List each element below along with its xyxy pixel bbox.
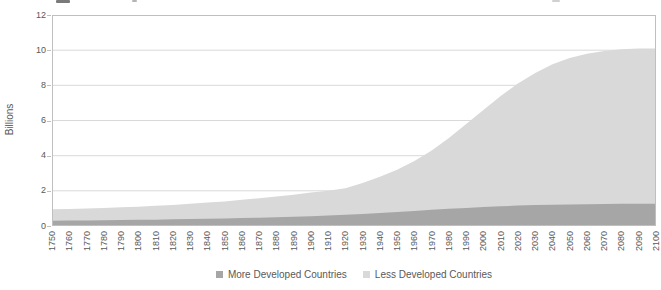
legend-swatch-less-developed-icon [363, 271, 370, 278]
y-axis-label-6: 6 [20, 115, 46, 126]
y-axis-label-10: 10 [20, 45, 46, 56]
x-axis-label-1890: 1890 [288, 231, 300, 261]
x-axis-label-1840: 1840 [201, 231, 213, 261]
y-axis-label-4: 4 [20, 150, 46, 161]
x-axis-label-1910: 1910 [322, 231, 334, 261]
stacked-area-chart [52, 15, 656, 226]
y-axis-label-12: 12 [20, 10, 46, 21]
x-axis-label-1760: 1760 [63, 231, 75, 261]
y-axis-tick [47, 191, 51, 192]
area-series-less-developed-countries [52, 48, 656, 226]
x-axis-label-2030: 2030 [529, 231, 541, 261]
x-axis-label-2000: 2000 [477, 231, 489, 261]
cropped-caption-remnant [132, 0, 137, 2]
y-axis-label-0: 0 [20, 221, 46, 232]
x-axis-label-1800: 1800 [132, 231, 144, 261]
x-axis-label-1920: 1920 [339, 231, 351, 261]
y-axis-tick [47, 156, 51, 157]
x-axis-label-1950: 1950 [391, 231, 403, 261]
legend-label-less-developed: Less Developed Countries [375, 269, 492, 280]
x-axis-label-1770: 1770 [81, 231, 93, 261]
y-axis-tick [47, 226, 51, 227]
x-axis-label-1810: 1810 [150, 231, 162, 261]
x-axis-label-2080: 2080 [615, 231, 627, 261]
legend-label-more-developed: More Developed Countries [228, 269, 347, 280]
y-axis-title: Billions [4, 14, 17, 225]
y-axis-label-2: 2 [20, 185, 46, 196]
x-axis-label-1830: 1830 [184, 231, 196, 261]
x-axis-label-1940: 1940 [374, 231, 386, 261]
chart-figure: Billions More Developed Countries Less D… [0, 0, 661, 290]
plot-area [52, 15, 656, 226]
x-axis-label-1960: 1960 [408, 231, 420, 261]
x-axis-label-2010: 2010 [495, 231, 507, 261]
x-axis-label-1930: 1930 [357, 231, 369, 261]
x-axis-label-1750: 1750 [46, 231, 58, 261]
x-axis-label-2040: 2040 [546, 231, 558, 261]
y-axis-tick [47, 85, 51, 86]
x-axis-label-1990: 1990 [460, 231, 472, 261]
x-axis-label-1790: 1790 [115, 231, 127, 261]
x-axis-label-1850: 1850 [219, 231, 231, 261]
x-axis-label-2100: 2100 [650, 231, 661, 261]
x-axis-label-1900: 1900 [305, 231, 317, 261]
cropped-caption-remnant [552, 0, 560, 2]
y-axis-tick [47, 15, 51, 16]
x-axis-label-2090: 2090 [633, 231, 645, 261]
x-axis-label-1870: 1870 [253, 231, 265, 261]
x-axis-label-2060: 2060 [581, 231, 593, 261]
x-axis-label-1860: 1860 [236, 231, 248, 261]
x-axis-label-1780: 1780 [98, 231, 110, 261]
y-axis-tick [47, 121, 51, 122]
x-axis-label-2050: 2050 [564, 231, 576, 261]
x-axis-label-2070: 2070 [598, 231, 610, 261]
y-axis-label-8: 8 [20, 80, 46, 91]
legend: More Developed Countries Less Developed … [52, 267, 656, 281]
legend-item-less-developed: Less Developed Countries [363, 269, 492, 280]
legend-swatch-more-developed-icon [216, 271, 223, 278]
x-axis-label-2020: 2020 [512, 231, 524, 261]
x-axis-label-1980: 1980 [443, 231, 455, 261]
y-axis-tick [47, 50, 51, 51]
cropped-caption-remnant [56, 0, 70, 3]
x-axis-label-1880: 1880 [270, 231, 282, 261]
x-axis-label-1820: 1820 [167, 231, 179, 261]
legend-item-more-developed: More Developed Countries [216, 269, 347, 280]
x-axis-label-1970: 1970 [426, 231, 438, 261]
